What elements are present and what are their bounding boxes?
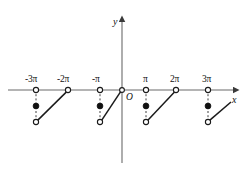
open-circle-below-neg-3pi	[33, 119, 38, 124]
open-circle-below-pos-pi	[143, 119, 148, 124]
tick-label-2pi: 2π	[170, 75, 179, 85]
group-3pi	[205, 87, 231, 124]
tick-label-pos-pi: π	[143, 75, 148, 85]
x-axis-label: x	[232, 95, 236, 105]
open-circle-endpoint-2pi	[173, 87, 178, 92]
filled-circle-3pi	[205, 103, 211, 109]
tick-label-neg-3pi: -3π	[25, 75, 37, 85]
filled-circle-neg-pi	[97, 103, 103, 109]
graph-canvas	[0, 0, 249, 175]
open-circle-on-axis-neg-pi	[97, 87, 102, 92]
segment-neg-3pi	[38, 91, 67, 120]
tick-label-neg-2pi: -2π	[57, 75, 69, 85]
segment-pos-pi	[148, 91, 175, 120]
group-neg-pi	[97, 87, 124, 124]
tick-label-neg-pi: -π	[92, 75, 100, 85]
origin-label: O	[126, 93, 133, 103]
tick-label-3pi: 3π	[202, 75, 211, 85]
segment-neg-pi	[102, 91, 121, 120]
open-circle-on-axis-neg-3pi	[33, 87, 38, 92]
segment-3pi	[210, 102, 231, 120]
open-circle-endpoint-origin	[120, 88, 125, 93]
open-circle-below-3pi	[205, 119, 210, 124]
filled-circle-pos-pi	[143, 103, 149, 109]
open-circle-endpoint-neg-2pi	[65, 87, 70, 92]
open-circle-on-axis-3pi	[205, 87, 210, 92]
graph-figure: -3π -2π -π π 2π 3π y x O	[0, 0, 249, 175]
group-neg-3pi	[33, 87, 71, 124]
group-pos-pi	[143, 87, 178, 124]
open-circle-on-axis-pos-pi	[143, 87, 148, 92]
y-axis-label: y	[113, 17, 117, 27]
filled-circle-neg-3pi	[33, 103, 39, 109]
open-circle-below-neg-pi	[97, 119, 102, 124]
